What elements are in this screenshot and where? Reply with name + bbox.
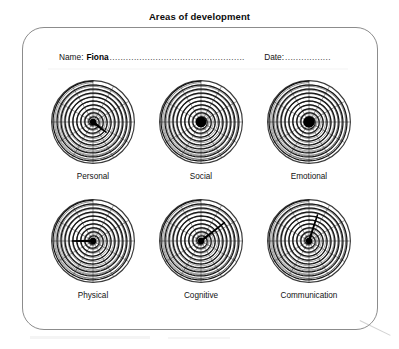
dial-cell-emotional[interactable]: Emotional xyxy=(255,76,363,195)
page-title: Areas of development xyxy=(0,11,399,22)
dial-grid: Personal Social Emotional Physical Cogni… xyxy=(39,76,363,314)
dial-cell-cognitive[interactable]: Cognitive xyxy=(147,195,255,314)
dial-cell-physical[interactable]: Physical xyxy=(39,195,147,314)
dial-label-emotional: Emotional xyxy=(291,172,327,181)
date-dotted-leader[interactable]: ................. xyxy=(285,53,347,61)
scan-artefact xyxy=(30,336,150,339)
worksheet-page: Areas of development Name: Fiona .......… xyxy=(0,0,399,349)
dial-chart-emotional[interactable] xyxy=(263,76,355,168)
name-value[interactable]: Fiona xyxy=(86,52,108,62)
worksheet-panel: Name: Fiona ............................… xyxy=(22,27,378,330)
dial-cell-social[interactable]: Social xyxy=(147,76,255,195)
dial-chart-physical[interactable] xyxy=(47,195,139,287)
dial-cell-personal[interactable]: Personal xyxy=(39,76,147,195)
dial-chart-cognitive[interactable] xyxy=(155,195,247,287)
dial-cell-communication[interactable]: Communication xyxy=(255,195,363,314)
dial-chart-communication[interactable] xyxy=(263,195,355,287)
dial-chart-personal[interactable] xyxy=(47,76,139,168)
date-label: Date: xyxy=(264,52,284,62)
dial-label-personal: Personal xyxy=(77,172,109,181)
scan-artefact-curve xyxy=(353,320,390,348)
dial-label-cognitive: Cognitive xyxy=(184,291,218,300)
name-dotted-leader: ........................................… xyxy=(110,53,264,61)
dial-label-physical: Physical xyxy=(78,291,109,300)
scan-artefact xyxy=(168,337,230,339)
name-label: Name: xyxy=(59,52,83,62)
dial-chart-social[interactable] xyxy=(155,76,247,168)
dial-label-communication: Communication xyxy=(281,291,338,300)
dial-label-social: Social xyxy=(190,172,212,181)
identity-row: Name: Fiona ............................… xyxy=(59,52,347,66)
scan-artefact xyxy=(48,68,348,70)
